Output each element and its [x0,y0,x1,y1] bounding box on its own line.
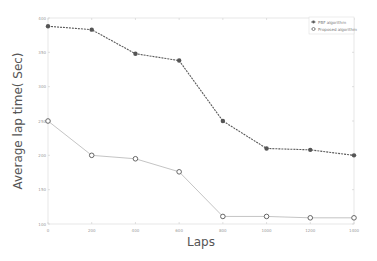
plot-area [48,18,354,224]
data-point [221,214,226,219]
x-axis-label: Laps [187,235,215,249]
legend: PBF algorithm Proposed algorithm [309,17,357,34]
x-tick-label: 800 [219,228,227,233]
x-tick-label: 1200 [305,228,316,233]
y-axis-label: Average lap time( Sec) [11,52,25,189]
y-tick-label: 400 [38,16,46,21]
data-point [177,170,182,175]
filled-circle-marker-icon [312,21,315,24]
data-point [264,146,268,150]
data-point [133,156,138,161]
data-point [89,153,94,158]
x-tick-label: 0 [47,228,50,233]
y-tick-label: 100 [38,222,46,227]
data-point [308,148,312,152]
x-tick-label: 1400 [349,228,360,233]
y-tick-label: 150 [38,187,46,192]
y-tick-label: 200 [38,153,46,158]
y-tick-label: 350 [38,50,46,55]
x-tick-label: 200 [88,228,96,233]
svg-text:Proposed algorithm: Proposed algorithm [318,27,357,32]
data-point [133,52,137,56]
x-tick-label: 1000 [261,228,272,233]
data-point [221,119,225,123]
hollow-circle-marker-icon [312,28,315,31]
line-chart: 100150200250300350400 020040060080010001… [0,0,377,261]
y-tick-label: 300 [38,84,46,89]
data-point [46,119,51,124]
data-point [264,214,269,219]
data-point [90,27,94,31]
data-point [308,216,313,221]
x-tick-label: 400 [132,228,140,233]
data-point [352,216,357,221]
x-tick-label: 600 [175,228,183,233]
svg-text:PBF algorithm: PBF algorithm [318,20,346,25]
data-point [46,24,50,28]
data-point [352,153,356,157]
legend-item-proposed: Proposed algorithm [311,27,357,32]
data-point [177,58,181,62]
